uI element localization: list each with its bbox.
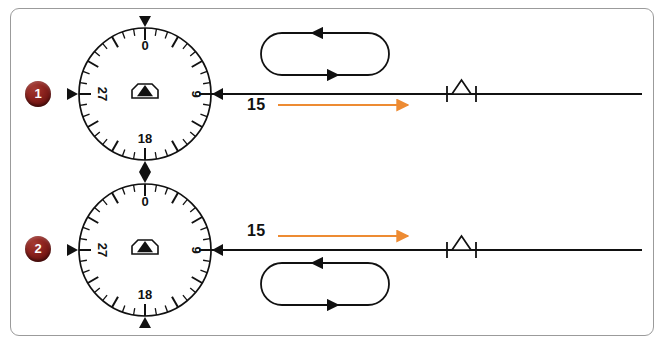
compass-index-north-icon — [139, 16, 151, 27]
aircraft-symbol-icon — [132, 240, 158, 254]
compass-index-south-icon — [139, 161, 151, 172]
compass-rose-1: 0 18 9 27 — [67, 16, 223, 172]
compass-label-east: 9 — [189, 246, 204, 253]
compass-index-north-icon — [139, 172, 151, 183]
compass-label-north: 0 — [141, 38, 148, 53]
holding-pattern-2 — [261, 263, 389, 305]
row-1-group: 0 18 9 27 — [67, 16, 642, 172]
course-label-2: 15 — [247, 222, 265, 240]
holding-pattern-1-track — [261, 33, 389, 75]
aircraft-symbol-icon — [132, 84, 158, 98]
compass-label-west: 27 — [95, 87, 110, 101]
compass-index-south-icon — [139, 317, 151, 328]
compass-index-west-icon — [67, 244, 78, 256]
holding-pattern-1 — [261, 33, 389, 75]
compass-index-west-icon — [67, 88, 78, 100]
fix-symbol-2-icon — [447, 236, 476, 258]
diagram-vector-layer: 0 18 9 27 — [0, 0, 666, 346]
compass-label-south: 18 — [138, 287, 152, 302]
compass-rose-2: 0 18 9 27 — [67, 172, 223, 328]
row-2-group: 0 18 9 27 — [67, 172, 642, 328]
fix-symbol-1-icon — [447, 80, 476, 102]
course-label-1: 15 — [247, 96, 265, 114]
compass-label-north: 0 — [141, 194, 148, 209]
compass-label-east: 9 — [189, 90, 204, 97]
diagram-canvas: 0 18 9 27 — [0, 0, 666, 346]
step-badge-1[interactable]: 1 — [25, 81, 51, 107]
step-badge-2[interactable]: 2 — [25, 236, 51, 262]
holding-pattern-2-track — [261, 263, 389, 305]
compass-label-south: 18 — [138, 131, 152, 146]
compass-label-west: 27 — [95, 243, 110, 257]
